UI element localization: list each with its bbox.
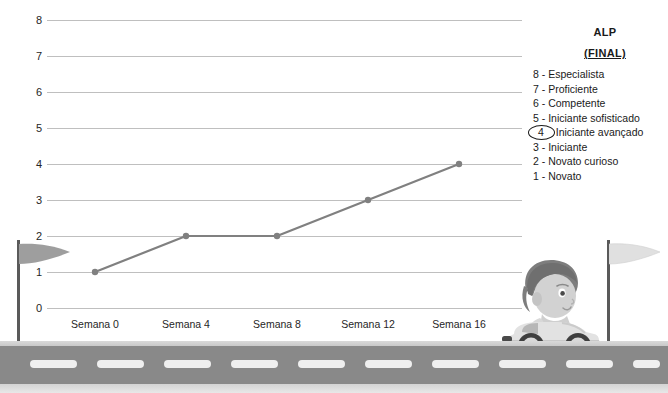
legend-item-2-level: 2 - — [533, 154, 545, 169]
legend-item-4-highlighted: 4 Iniciante avançado — [528, 125, 668, 140]
series-line-alp — [95, 164, 459, 272]
legend-item-5: 5 - Iniciante sofisticado — [528, 111, 668, 126]
lane-dash — [499, 360, 546, 368]
legend-item-8: 8 - Especialista — [528, 67, 668, 82]
legend-title: ALP — [528, 26, 668, 38]
alp-progress-chart-figure: 8 7 6 5 4 3 2 1 0 Semana 0 Semana 4 Sema… — [0, 0, 668, 393]
legend-item-3: 3 - Iniciante — [528, 140, 668, 155]
lane-dash — [30, 360, 77, 368]
data-point-1 — [183, 233, 189, 239]
legend-item-7-label: Proficiente — [548, 83, 598, 95]
legend-item-6: 6 - Competente — [528, 96, 668, 111]
legend-item-3-level: 3 - — [533, 140, 545, 155]
legend-panel: ALP (FINAL) 8 - Especialista 7 - Profici… — [528, 26, 668, 183]
legend-item-7: 7 - Proficiente — [528, 82, 668, 97]
legend-item-4-level: 4 — [533, 125, 553, 140]
lane-dash — [97, 360, 144, 368]
legend-subtitle: (FINAL) — [528, 47, 668, 59]
series-markers-group — [92, 161, 462, 275]
finish-flag-pennant-icon — [609, 243, 661, 269]
legend-item-8-label: Especialista — [548, 68, 604, 80]
data-point-2 — [274, 233, 280, 239]
data-point-4 — [456, 161, 462, 167]
legend-item-1-level: 1 - — [533, 169, 545, 184]
legend-item-5-level: 5 - — [533, 111, 545, 126]
legend-item-1-label: Novato — [548, 170, 581, 182]
lane-dash — [164, 360, 211, 368]
lane-dash — [633, 360, 660, 368]
legend-item-2: 2 - Novato curioso — [528, 154, 668, 169]
legend-item-8-level: 8 - — [533, 67, 545, 82]
lane-dash — [566, 360, 613, 368]
lane-dash — [298, 360, 345, 368]
legend-item-7-level: 7 - — [533, 82, 545, 97]
legend-item-5-label: Iniciante sofisticado — [548, 112, 640, 124]
legend-item-4-label: Iniciante avançado — [556, 126, 644, 138]
start-flag-pennant-icon — [19, 243, 71, 269]
data-point-0 — [92, 269, 98, 275]
road-graphic — [0, 341, 668, 393]
legend-item-3-label: Iniciante — [548, 141, 587, 153]
legend-item-6-level: 6 - — [533, 96, 545, 111]
lane-dash — [432, 360, 479, 368]
legend-item-2-label: Novato curioso — [548, 155, 618, 167]
legend-item-1: 1 - Novato — [528, 169, 668, 184]
lane-dash — [365, 360, 412, 368]
data-point-3 — [365, 197, 371, 203]
road-shoulder-bottom — [0, 384, 668, 393]
legend-item-6-label: Competente — [548, 97, 605, 109]
lane-dash — [231, 360, 278, 368]
